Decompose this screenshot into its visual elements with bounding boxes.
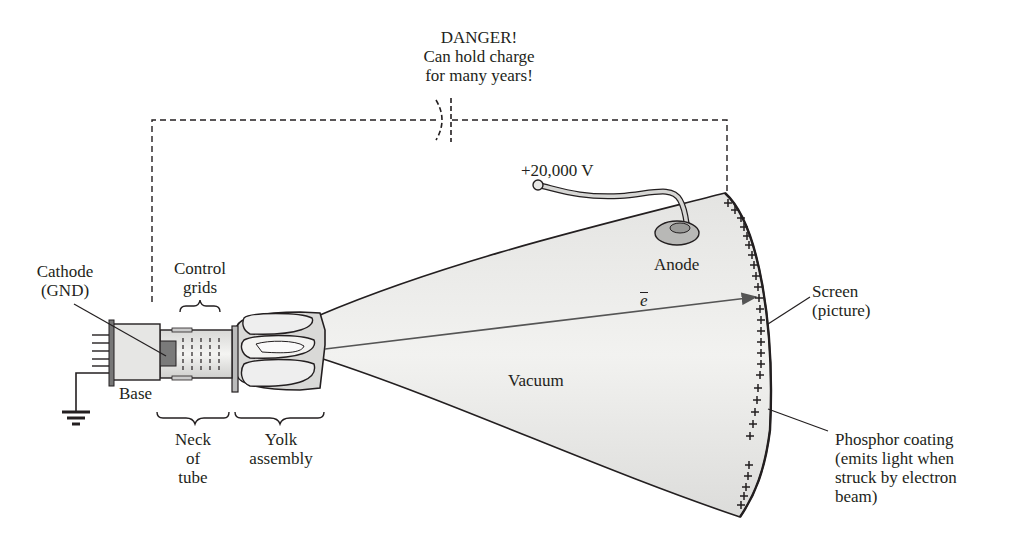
danger-line-1: DANGER! (400, 28, 558, 47)
neck-label: Neck of tube (163, 430, 223, 487)
neck-label-line-1: Neck (163, 430, 223, 449)
yolk-label: Yolk assembly (238, 430, 324, 468)
cathode-label-line-1: Cathode (28, 262, 102, 281)
danger-warning: DANGER! Can hold charge for many years! (400, 28, 558, 85)
vacuum-label: Vacuum (508, 371, 564, 390)
screen-leader (768, 297, 810, 324)
danger-line-2: Can hold charge (400, 47, 558, 66)
phosphor-label: Phosphor coating (emits light when struc… (835, 430, 957, 506)
tube-neck (158, 328, 232, 380)
electron-label: e (640, 292, 648, 308)
yolk-assembly (232, 312, 325, 392)
base-label: Base (119, 384, 152, 403)
screen-label-line-2: (picture) (812, 301, 871, 320)
screen-label-line-1: Screen (812, 282, 871, 301)
ground-icon (62, 373, 109, 424)
screen-label: Screen (picture) (812, 282, 871, 320)
capacitor-icon (436, 98, 451, 142)
yolk-label-line-1: Yolk (238, 430, 324, 449)
base-pins (92, 335, 109, 366)
control-grids-label: Control grids (163, 259, 237, 297)
anode-label: Anode (654, 255, 699, 274)
neck-label-line-2: of (163, 449, 223, 468)
control-grids-label-line-2: grids (163, 278, 237, 297)
phosphor-label-line-4: beam) (835, 487, 957, 506)
tube-funnel (320, 193, 771, 517)
cathode-label-line-2: (GND) (28, 281, 102, 300)
phosphor-leader (768, 409, 828, 431)
phosphor-label-line-2: (emits light when (835, 449, 957, 468)
phosphor-label-line-1: Phosphor coating (835, 430, 957, 449)
tube-base (92, 320, 160, 386)
danger-line-3: for many years! (400, 66, 558, 85)
control-grids-label-line-1: Control (163, 259, 237, 278)
phosphor-label-line-3: struck by electron (835, 468, 957, 487)
cathode-label: Cathode (GND) (28, 262, 102, 300)
neck-label-line-3: tube (163, 468, 223, 487)
yolk-label-line-2: assembly (238, 449, 324, 468)
voltage-label: +20,000 V (521, 161, 594, 180)
